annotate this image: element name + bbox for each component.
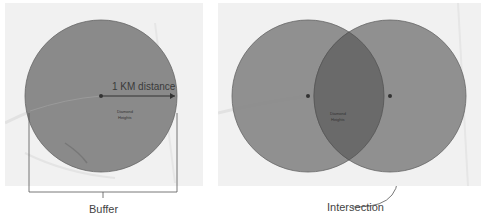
map-background-roads — [5, 3, 203, 186]
center-point-a — [306, 94, 310, 98]
buffer-map-panel: 1 KM distance Diamond Heights — [5, 3, 203, 186]
center-point-b — [388, 94, 392, 98]
place-label-line2: Heights — [331, 117, 345, 122]
center-point — [99, 94, 103, 98]
map-background-roads — [218, 3, 481, 186]
intersection-caption: Intersection — [327, 201, 384, 213]
distance-label: 1 KM distance — [112, 81, 175, 92]
place-label-line1: Diamond — [330, 111, 346, 116]
place-label-line1: Diamond — [117, 109, 133, 114]
place-label-line2: Heights — [118, 115, 132, 120]
intersection-map-panel: Diamond Heights — [218, 3, 481, 186]
buffer-caption: Buffer — [89, 203, 118, 215]
